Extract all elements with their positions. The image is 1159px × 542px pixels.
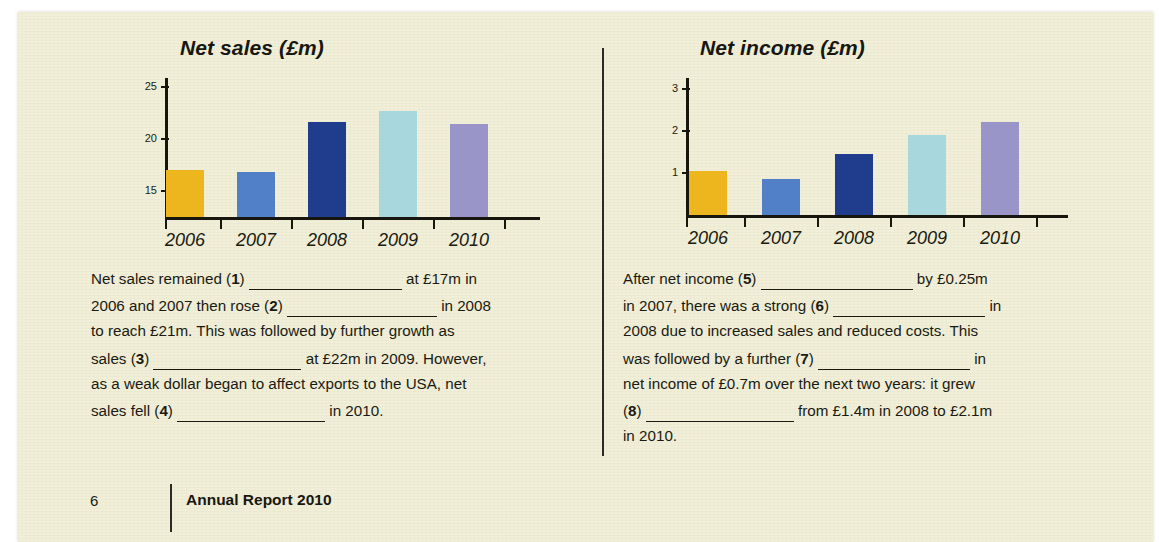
chart-net-sales: Net sales (£m) 1520252006200720082009201… [128,30,558,240]
x-axis-tick [817,218,819,227]
bar-2008 [835,154,873,215]
bar-2008 [308,122,346,217]
answer-blank[interactable] [177,396,325,422]
exercise-line: in 2010. [623,423,1118,448]
exercise-line: to reach £21m. This was followed by furt… [91,318,591,343]
x-axis-label-2008: 2008 [295,230,359,251]
text-run: from £1.4m in 2008 to £2.1m [794,402,992,419]
answer-blank[interactable] [287,291,437,317]
exercise-line: sales (3) at £22m in 2009. However, [91,344,591,371]
text-run: sales ( [91,350,136,367]
text-run: by £0.25m [913,270,988,287]
y-axis-tick [161,86,169,88]
y-axis-tick [161,138,169,140]
question-number: 4 [159,402,167,419]
exercise-line: (8) from £1.4m in 2008 to £2.1m [623,396,1118,423]
text-run: to reach £21m. This was followed by furt… [91,322,455,339]
y-axis-tick-label: 1 [654,166,678,178]
y-axis-tick-label: 3 [654,82,678,94]
text-run: in 2007, there was a strong ( [623,297,815,314]
bar-2009 [379,111,417,217]
x-axis-label-2006: 2006 [676,228,740,249]
text-run: in 2010. [325,402,383,419]
exercise-text-right: After net income (5) by £0.25min 2007, t… [623,264,1118,448]
x-axis-tick [686,218,688,227]
x-axis-label-2010: 2010 [968,228,1032,249]
answer-blank[interactable] [761,264,913,290]
x-axis-tick [362,220,364,229]
question-number: 8 [628,402,636,419]
text-run: ) [637,402,646,419]
x-axis-tick [433,220,435,229]
text-run: 2006 and 2007 then rose ( [91,297,269,314]
answer-blank[interactable] [249,264,402,290]
x-axis-tick [1036,218,1038,227]
page-number: 6 [90,492,98,509]
exercise-text-left: Net sales remained (1) at £17m in2006 an… [91,264,591,423]
x-axis-tick [963,218,965,227]
y-axis-tick-label: 20 [133,132,157,144]
text-run: in [985,297,1001,314]
text-run: ) [751,270,760,287]
x-axis-label-2009: 2009 [366,230,430,251]
x-axis-label-2007: 2007 [224,230,288,251]
report-page: Net sales (£m) 1520252006200720082009201… [18,12,1153,542]
x-axis-tick [504,220,506,229]
x-axis-label-2007: 2007 [749,228,813,249]
text-run: net income of £0.7m over the next two ye… [623,375,975,392]
text-run: 2008 due to increased sales and reduced … [623,322,978,339]
answer-blank[interactable] [833,291,985,317]
question-number: 7 [800,350,808,367]
text-run: in 2010. [623,427,677,444]
y-axis-tick-label: 25 [133,80,157,92]
exercise-line: Net sales remained (1) at £17m in [91,264,591,291]
footer-title: Annual Report 2010 [186,491,332,509]
text-run: After net income ( [623,270,743,287]
bar-2006 [166,170,204,217]
exercise-line: 2008 due to increased sales and reduced … [623,318,1118,343]
x-axis-label-2010: 2010 [437,230,501,251]
y-axis-tick-label: 2 [654,124,678,136]
text-run: in [970,350,986,367]
answer-blank[interactable] [818,344,970,370]
text-run: was followed by a further ( [623,350,800,367]
bar-2007 [762,179,800,215]
question-number: 3 [136,350,144,367]
x-axis-tick [291,220,293,229]
chart-title-net-sales: Net sales (£m) [180,36,324,60]
bar-2010 [981,122,1019,215]
exercise-line: was followed by a further (7) in [623,344,1118,371]
footer-rule [170,484,172,532]
x-axis-label-2009: 2009 [895,228,959,249]
text-run: ) [824,297,833,314]
text-run: ) [809,350,818,367]
bar-2006 [689,171,727,215]
y-axis-tick [682,88,690,90]
question-number: 1 [231,270,239,287]
bar-2009 [908,135,946,215]
exercise-line: sales fell (4) in 2010. [91,396,591,423]
question-number: 2 [269,297,277,314]
plot-area-net-sales: 15202520062007200820092010 [128,62,558,240]
text-run: sales fell ( [91,402,159,419]
text-run: at £17m in [402,270,477,287]
text-run: in 2008 [437,297,491,314]
answer-blank[interactable] [153,344,301,370]
exercise-line: as a weak dollar began to affect exports… [91,371,591,396]
exercise-line: 2006 and 2007 then rose (2) in 2008 [91,291,591,318]
exercise-line: After net income (5) by £0.25m [623,264,1118,291]
chart-title-net-income: Net income (£m) [700,36,865,60]
text-run: as a weak dollar began to affect exports… [91,375,466,392]
text-run: Net sales remained ( [91,270,231,287]
text-run: ) [240,270,249,287]
text-run: ) [144,350,153,367]
bar-2010 [450,124,488,217]
x-axis-tick [165,220,167,229]
bar-2007 [237,172,275,217]
x-axis-label-2008: 2008 [822,228,886,249]
answer-blank[interactable] [646,396,794,422]
x-axis-label-2006: 2006 [153,230,217,251]
x-axis-tick [744,218,746,227]
chart-net-income: Net income (£m) 12320062007200820092010 [658,30,1088,240]
text-run: at £22m in 2009. However, [301,350,486,367]
